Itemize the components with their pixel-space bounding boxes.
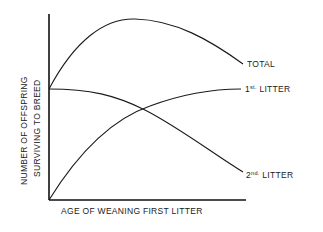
y-axis-label-line-2: SURVIVING TO BREED — [32, 79, 42, 177]
first-litter-curve — [49, 89, 241, 200]
x-axis-label: AGE OF WEANING FIRST LITTER — [61, 206, 203, 216]
chart: TOTAL 1st. LITTER 2nd. LITTER AGE OF WEA… — [0, 0, 323, 232]
second-litter-label: 2nd. LITTER — [246, 170, 293, 180]
total-label: TOTAL — [247, 59, 275, 69]
total-curve — [49, 19, 243, 89]
y-axis-label-line-1: NUMBER OF OFFSPRING — [19, 76, 29, 185]
first-litter-label: 1st. LITTER — [245, 84, 291, 94]
